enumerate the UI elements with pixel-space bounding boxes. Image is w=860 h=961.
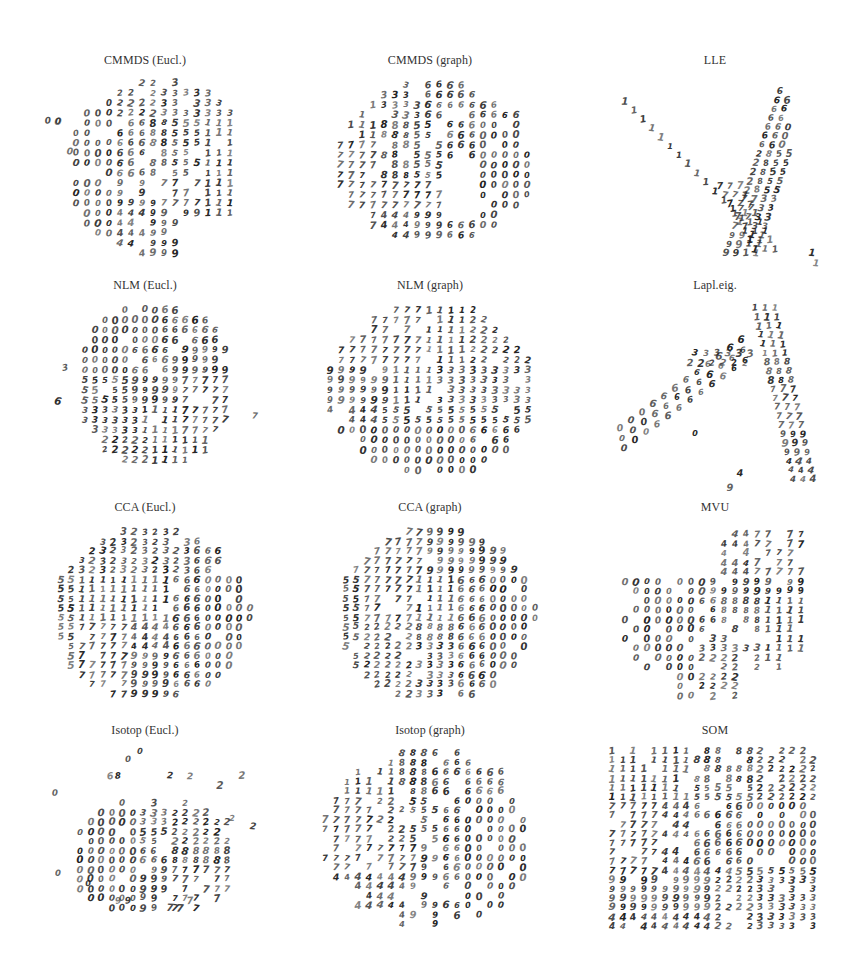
digit-marker: 8 (415, 622, 422, 632)
digit-marker: 2 (492, 336, 498, 344)
digit-marker: 1 (152, 594, 158, 603)
digit-marker: 8 (149, 138, 157, 149)
panel-title: LLE (580, 53, 850, 68)
digit-marker: 7 (99, 661, 105, 670)
digit-marker: 0 (129, 884, 135, 892)
digit-marker: 4 (742, 529, 750, 539)
digit-marker: 1 (742, 248, 750, 259)
digit-marker: 5 (193, 158, 201, 169)
digit-marker: 7 (376, 853, 383, 863)
digit-marker: 0 (490, 170, 497, 180)
digit-marker: 1 (141, 584, 148, 594)
digit-marker: 1 (667, 142, 673, 150)
digit-marker: 4 (116, 208, 123, 217)
digit-marker: 1 (657, 131, 666, 142)
digit-marker: 5 (112, 395, 119, 404)
digit-marker: 0 (768, 802, 774, 811)
digit-marker: 0 (479, 180, 486, 190)
digit-marker: 9 (131, 395, 138, 405)
digit-marker: 7 (193, 178, 200, 188)
digit-marker: 0 (359, 445, 366, 455)
digit-marker: 6 (675, 403, 682, 412)
digit-marker: 1 (639, 114, 647, 125)
panel-title: Isotop (Eucl.) (10, 723, 280, 738)
digit-marker: 6 (479, 642, 485, 651)
digit-marker: 0 (106, 99, 112, 108)
digit-marker: 6 (192, 326, 198, 334)
digit-marker: 7 (394, 594, 401, 604)
digit-marker: 0 (84, 188, 91, 197)
digit-marker: 6 (173, 575, 180, 584)
digit-marker: 7 (338, 345, 345, 354)
digit-marker: 7 (343, 862, 350, 871)
digit-marker: 0 (521, 622, 528, 631)
digit-marker: 7 (120, 689, 127, 699)
digit-marker: 8 (398, 776, 406, 787)
digit-marker: 7 (366, 844, 372, 853)
digit-marker: 0 (498, 844, 505, 853)
digit-marker: 4 (376, 900, 384, 911)
digit-marker: 3 (810, 921, 817, 930)
digit-marker: 0 (767, 847, 774, 857)
panel-title: NLM (graph) (295, 278, 565, 293)
digit-marker: 1 (771, 244, 779, 254)
digit-marker: 0 (621, 614, 628, 624)
digit-marker: 2 (131, 455, 139, 465)
digit-marker: 1 (355, 768, 362, 777)
digit-marker: 1 (425, 584, 433, 595)
digit-marker: 0 (481, 455, 488, 464)
digit-marker: 1 (347, 120, 355, 131)
digit-marker: 3 (121, 547, 127, 555)
digit-marker: 1 (648, 123, 656, 133)
digit-marker: 1 (369, 130, 376, 140)
digit-marker: 2 (731, 691, 739, 701)
digit-marker: 0 (437, 466, 443, 475)
digit-marker: 6 (150, 855, 158, 865)
digit-marker: 0 (459, 436, 465, 444)
digit-marker: 3 (160, 108, 168, 118)
digit-marker: 0 (531, 603, 538, 612)
digit-marker: 0 (510, 632, 516, 641)
digit-marker: 7 (99, 642, 105, 651)
digit-marker: 7 (374, 566, 380, 575)
digit-marker: 1 (764, 652, 771, 662)
digit-marker: 9 (797, 586, 805, 596)
digit-marker: 2 (384, 679, 391, 689)
digit-marker: 0 (497, 862, 505, 873)
digit-scatter-plot: 0000000006666666666666666666666666661111… (580, 298, 850, 493)
digit-marker: 7 (224, 875, 230, 883)
digit-marker: 1 (459, 316, 465, 325)
digit-marker: 7 (414, 335, 421, 345)
digit-marker: 7 (191, 425, 199, 435)
digit-marker: 5 (182, 138, 189, 148)
digit-marker: 7 (202, 385, 209, 394)
digit-marker: 6 (214, 555, 222, 566)
digit-marker: 6 (664, 411, 672, 421)
digit-marker: 5 (194, 128, 201, 137)
digit-marker: 6 (686, 395, 693, 405)
digit-marker: 6 (193, 660, 200, 670)
digit-marker: 7 (78, 623, 85, 632)
digit-marker: 2 (363, 641, 370, 650)
digit-marker: 9 (142, 376, 148, 385)
digit-marker: 4 (365, 900, 373, 911)
digit-marker: 7 (347, 180, 354, 190)
digit-marker: 4 (354, 881, 362, 892)
digit-marker: 7 (370, 180, 377, 189)
digit-marker: 1 (448, 356, 454, 365)
digit-marker: 2 (363, 623, 370, 632)
digit-marker: 4 (138, 208, 146, 218)
digit-marker: 6 (457, 140, 465, 151)
digit-marker: 1 (201, 445, 209, 455)
panel-mvu: MVU 447777444777744777444777444777770000… (580, 500, 850, 715)
digit-marker: 1 (459, 306, 465, 315)
digit-marker: 8 (693, 755, 701, 766)
digit-marker: 0 (620, 443, 627, 453)
digit-marker: 8 (736, 774, 743, 783)
digit-marker: 6 (453, 766, 461, 777)
digit-scatter-plot: 4477774447777447774447774447777700000009… (580, 520, 850, 715)
digit-marker: 3 (131, 415, 138, 425)
digit-marker: 0 (633, 586, 639, 595)
digit-marker: 9 (162, 651, 168, 660)
digit-marker: 3 (403, 91, 410, 100)
